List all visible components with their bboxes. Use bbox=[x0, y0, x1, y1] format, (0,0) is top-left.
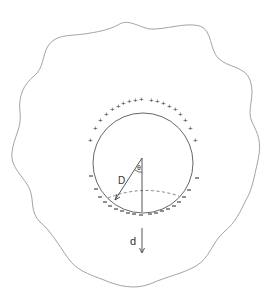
svg-text:+: + bbox=[98, 116, 103, 125]
svg-text:+: + bbox=[167, 102, 172, 111]
svg-text:+: + bbox=[133, 96, 138, 105]
svg-text:+: + bbox=[188, 124, 193, 133]
svg-text:+: + bbox=[121, 99, 126, 108]
positive-charges: + + + + + + + + + + + + + + + + + + + bbox=[88, 95, 198, 145]
radius-label: D bbox=[118, 175, 125, 186]
outer-boundary bbox=[12, 22, 260, 287]
diagram-canvas: θ D d + + + + + + + + + + + + + + + + + … bbox=[0, 0, 269, 297]
angle-label: θ bbox=[137, 164, 141, 171]
svg-text:+: + bbox=[139, 95, 144, 104]
svg-text:+: + bbox=[93, 124, 98, 133]
svg-text:+: + bbox=[149, 96, 154, 105]
svg-text:+: + bbox=[193, 136, 198, 145]
displacement-label: d bbox=[130, 235, 136, 247]
svg-text:+: + bbox=[127, 97, 132, 106]
svg-text:+: + bbox=[88, 136, 93, 145]
svg-text:+: + bbox=[110, 105, 115, 114]
svg-text:+: + bbox=[104, 110, 109, 119]
svg-text:+: + bbox=[161, 99, 166, 108]
svg-text:+: + bbox=[155, 97, 160, 106]
